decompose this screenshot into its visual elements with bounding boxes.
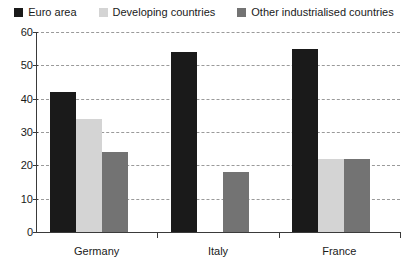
x-axis: GermanyItalyFrance	[36, 232, 401, 233]
y-axis-tick-label: 0	[27, 227, 33, 238]
legend-swatch-icon	[99, 8, 108, 17]
x-axis-tick	[400, 233, 401, 238]
y-axis-tick	[33, 65, 38, 66]
legend-swatch-icon	[14, 8, 23, 17]
y-axis-tick	[33, 99, 38, 100]
bar	[76, 119, 102, 232]
gridline	[36, 99, 400, 100]
y-axis-tick	[33, 199, 38, 200]
legend-item: Other industrialised countries	[237, 6, 393, 18]
legend-swatch-icon	[237, 8, 246, 17]
y-axis-tick-label: 30	[21, 127, 33, 138]
gridline	[36, 32, 400, 33]
bar-chart: Euro areaDeveloping countriesOther indus…	[0, 0, 408, 267]
y-axis-tick-label: 20	[21, 160, 33, 171]
bar	[292, 49, 318, 232]
bar	[318, 159, 344, 232]
legend-item-label: Other industrialised countries	[251, 6, 393, 18]
y-axis-tick-label: 50	[21, 60, 33, 71]
bar	[171, 52, 197, 232]
x-axis-category-label: France	[322, 245, 356, 257]
x-axis-tick	[157, 233, 158, 238]
plot-area	[36, 32, 400, 232]
y-axis-tick	[33, 165, 38, 166]
bar	[223, 172, 249, 232]
x-axis-tick	[279, 233, 280, 238]
bar	[102, 152, 128, 232]
y-axis-tick	[33, 132, 38, 133]
y-axis-tick	[33, 32, 38, 33]
y-axis-tick-label: 40	[21, 93, 33, 104]
y-axis: 0102030405060	[36, 32, 37, 233]
legend-item-label: Euro area	[28, 6, 76, 18]
bar	[344, 159, 370, 232]
bar	[50, 92, 76, 232]
legend-item: Developing countries	[99, 6, 216, 18]
legend-item-label: Developing countries	[113, 6, 216, 18]
gridline	[36, 65, 400, 66]
y-axis-tick-label: 60	[21, 27, 33, 38]
x-axis-category-label: Italy	[208, 245, 228, 257]
x-axis-category-label: Germany	[74, 245, 119, 257]
chart-legend: Euro areaDeveloping countriesOther indus…	[0, 3, 408, 21]
y-axis-tick-label: 10	[21, 193, 33, 204]
legend-item: Euro area	[14, 6, 76, 18]
